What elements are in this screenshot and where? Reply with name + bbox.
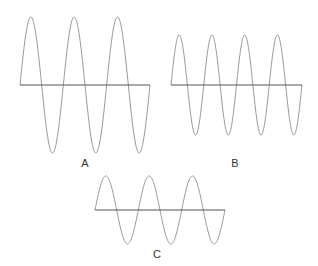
wave-c-group: C bbox=[95, 176, 225, 260]
sine-wave-diagram: A B C bbox=[0, 0, 318, 266]
wave-b-group: B bbox=[171, 35, 302, 169]
wave-a-label: A bbox=[81, 157, 89, 169]
wave-b-label: B bbox=[231, 157, 238, 169]
wave-a-group: A bbox=[20, 17, 150, 169]
wave-c-label: C bbox=[153, 248, 161, 260]
